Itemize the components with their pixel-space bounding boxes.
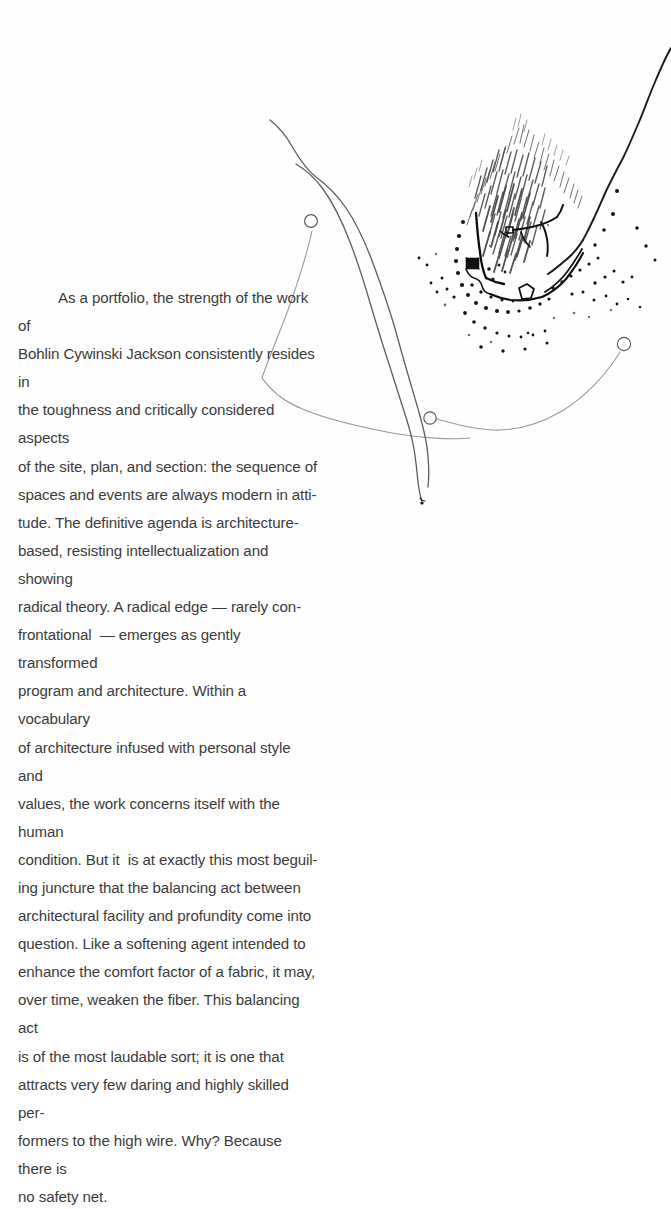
essay-line: attracts very few daring and highly skil… bbox=[18, 1071, 318, 1127]
essay-line: based, resisting intellectualization and… bbox=[18, 537, 318, 593]
node-marker-2 bbox=[424, 412, 436, 424]
essay-paragraph: As a portfolio, the strength of the work… bbox=[18, 284, 318, 1209]
essay-line: tude. The definitive agenda is architect… bbox=[18, 509, 318, 537]
essay-line: of architecture infused with personal st… bbox=[18, 734, 318, 790]
essay-line: values, the work concerns itself with th… bbox=[18, 790, 318, 846]
essay-line: ing juncture that the balancing act betw… bbox=[18, 874, 318, 902]
essay-line: frontational — emerges as gently transfo… bbox=[18, 621, 318, 677]
essay-line: Bohlin Cywinski Jackson consistently res… bbox=[18, 340, 318, 396]
essay-line: over time, weaken the fiber. This balanc… bbox=[18, 986, 318, 1042]
essay-line: radical theory. A radical edge — rarely … bbox=[18, 593, 318, 621]
essay-line: formers to the high wire. Why? Because t… bbox=[18, 1127, 318, 1183]
essay-line: the toughness and critically considered … bbox=[18, 396, 318, 452]
essay-line: of the site, plan, and section: the sequ… bbox=[18, 453, 318, 481]
essay-line: architectural facility and profundity co… bbox=[18, 902, 318, 930]
essay-line: spaces and events are always modern in a… bbox=[18, 481, 318, 509]
building-footprint bbox=[466, 205, 583, 300]
vegetation-scribble bbox=[467, 114, 582, 273]
essay-line: question. Like a softening agent intende… bbox=[18, 930, 318, 958]
node-marker-1 bbox=[305, 215, 318, 228]
tree-dot-field bbox=[418, 189, 657, 353]
body-text-column: As a portfolio, the strength of the work… bbox=[18, 284, 318, 1209]
node-marker-3 bbox=[617, 337, 630, 350]
path-arc bbox=[433, 352, 620, 430]
essay-line: As a portfolio, the strength of the work… bbox=[18, 284, 318, 340]
essay-line: is of the most laudable sort; it is one … bbox=[18, 1043, 318, 1071]
node-markers bbox=[305, 215, 631, 425]
contour-ridge-line bbox=[548, 48, 671, 274]
essay-line: no safety net. bbox=[18, 1183, 318, 1209]
essay-line: enhance the comfort factor of a fabric, … bbox=[18, 958, 318, 986]
essay-line: program and architecture. Within a vocab… bbox=[18, 677, 318, 733]
essay-line: condition. But it is at exactly this mos… bbox=[18, 846, 318, 874]
